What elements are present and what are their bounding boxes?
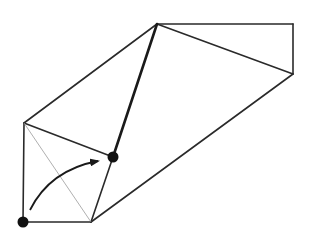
edge-left-top-to-middle [24,123,113,157]
vertex-dot-middle [108,152,119,163]
edge-top-to-middle-bold [113,24,157,157]
edge-thin-diagonal [24,123,91,222]
edge-top-to-right-diagonal [157,24,293,74]
vertex-dot-bottom-left [18,217,29,228]
edge-middle-to-bottom [91,157,113,222]
edge-left-side [23,123,24,222]
edge-right-to-bottom [91,74,293,222]
rotation-arrow-icon [30,161,98,210]
folding-diagram [0,0,314,246]
edge-top-to-left-top [24,24,157,123]
